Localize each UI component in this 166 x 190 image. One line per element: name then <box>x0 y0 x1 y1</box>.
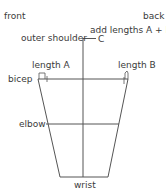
length-b-bracket <box>125 71 128 79</box>
length-a-label: length A <box>32 60 70 70</box>
front-label: front <box>4 11 25 21</box>
outer-shoulder-label: outer shoulder <box>21 33 87 43</box>
right-edge <box>108 79 128 177</box>
elbow-label: elbow <box>19 119 46 129</box>
c-label: C <box>98 34 104 44</box>
bicep-label: bicep <box>8 74 32 84</box>
back-label: back <box>143 11 164 21</box>
length-a-bracket <box>39 73 45 79</box>
wrist-label: wrist <box>74 180 96 190</box>
length-b-label: length B <box>118 60 156 70</box>
